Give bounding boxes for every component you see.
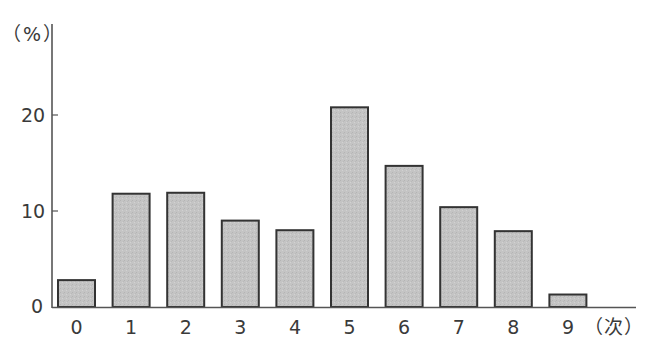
x-tick-label-0: 0 — [71, 318, 83, 337]
bar-5 — [331, 107, 368, 307]
chart-canvas — [0, 0, 657, 351]
bar-6 — [386, 166, 423, 307]
x-tick-label-6: 6 — [398, 318, 410, 337]
bar-2 — [167, 193, 204, 307]
bar-4 — [276, 230, 313, 307]
bar-3 — [222, 221, 259, 307]
y-tick-label-10: 10 — [21, 202, 45, 221]
y-axis-unit-label: （%） — [2, 25, 64, 44]
x-tick-label-3: 3 — [234, 318, 246, 337]
bars-group — [58, 107, 586, 307]
x-tick-label-4: 4 — [289, 318, 301, 337]
x-tick-label-2: 2 — [180, 318, 192, 337]
y-tick-label-0: 0 — [31, 297, 43, 316]
bar-chart: （%） 20 10 0 0123456789 （次） — [0, 0, 657, 351]
x-tick-label-5: 5 — [344, 318, 356, 337]
x-tick-label-8: 8 — [507, 318, 519, 337]
x-tick-label-1: 1 — [125, 318, 137, 337]
x-tick-label-9: 9 — [562, 318, 574, 337]
bar-8 — [495, 231, 532, 307]
bar-7 — [440, 207, 477, 307]
x-axis-unit-label: （次） — [584, 318, 644, 337]
bar-0 — [58, 280, 95, 307]
bar-9 — [549, 295, 586, 307]
x-tick-label-7: 7 — [453, 318, 465, 337]
bar-1 — [113, 194, 150, 307]
y-tick-label-20: 20 — [21, 106, 45, 125]
